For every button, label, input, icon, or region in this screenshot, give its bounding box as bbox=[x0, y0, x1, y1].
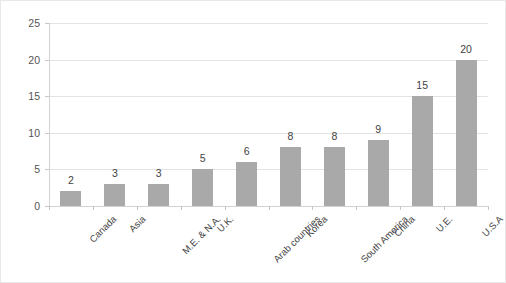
x-axis-category-label: M.E. & N.A. bbox=[180, 214, 222, 256]
bar-value-label: 8 bbox=[270, 131, 310, 142]
bar-value-label: 6 bbox=[227, 146, 267, 157]
y-tick-label-5: 5 bbox=[1, 164, 40, 175]
bar-value-label: 15 bbox=[402, 80, 442, 91]
gridline-20 bbox=[49, 60, 488, 61]
y-tick-mark-25 bbox=[45, 23, 49, 24]
bar-value-label: 3 bbox=[95, 168, 135, 179]
x-tick-mark bbox=[356, 206, 357, 210]
bar bbox=[148, 184, 169, 206]
bar-chart-figure: 0510152025 2Canada3Asia3M.E. & N.A.5U.K.… bbox=[0, 0, 506, 283]
y-tick-mark-15 bbox=[45, 96, 49, 97]
bar-value-label: 5 bbox=[183, 153, 223, 164]
bar-value-label: 20 bbox=[446, 44, 486, 55]
x-tick-mark bbox=[181, 206, 182, 210]
x-axis-category-label: Asia bbox=[127, 214, 147, 234]
y-tick-mark-10 bbox=[45, 133, 49, 134]
y-tick-label-0: 0 bbox=[1, 201, 40, 212]
y-tick-label-15: 15 bbox=[1, 91, 40, 102]
x-tick-mark bbox=[444, 206, 445, 210]
y-tick-mark-5 bbox=[45, 169, 49, 170]
bar bbox=[368, 140, 389, 206]
x-tick-mark bbox=[269, 206, 270, 210]
x-tick-mark bbox=[312, 206, 313, 210]
bar-value-label: 2 bbox=[51, 175, 91, 186]
x-axis-category-label: Canada bbox=[88, 214, 118, 244]
bar bbox=[324, 147, 345, 206]
bar-value-label: 8 bbox=[314, 131, 354, 142]
y-tick-label-10: 10 bbox=[1, 128, 40, 139]
y-tick-label-20: 20 bbox=[1, 55, 40, 66]
bar bbox=[280, 147, 301, 206]
y-tick-mark-20 bbox=[45, 60, 49, 61]
bar bbox=[456, 60, 477, 206]
bar bbox=[192, 169, 213, 206]
bar bbox=[104, 184, 125, 206]
x-tick-mark bbox=[93, 206, 94, 210]
x-tick-mark bbox=[400, 206, 401, 210]
x-tick-mark bbox=[225, 206, 226, 210]
y-tick-label-25: 25 bbox=[1, 18, 40, 29]
bar bbox=[60, 191, 81, 206]
gridline-25 bbox=[49, 23, 488, 24]
x-axis-category-label: U.E. bbox=[435, 214, 455, 234]
x-axis-category-label: U.S.A bbox=[480, 214, 504, 238]
bar bbox=[236, 162, 257, 206]
x-tick-mark bbox=[49, 206, 50, 210]
bar bbox=[412, 96, 433, 206]
x-tick-mark bbox=[488, 206, 489, 210]
bar-value-label: 3 bbox=[139, 168, 179, 179]
x-tick-mark bbox=[137, 206, 138, 210]
y-axis-line bbox=[49, 23, 50, 207]
bar-value-label: 9 bbox=[358, 124, 398, 135]
